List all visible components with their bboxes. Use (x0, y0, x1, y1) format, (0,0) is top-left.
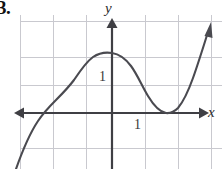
grid-lines (20, 15, 222, 169)
y-axis-arrowhead (107, 18, 118, 28)
y-unit-tick-label: 1 (99, 70, 106, 84)
axes (14, 18, 209, 169)
x-axis-negative-arrowhead (14, 108, 24, 119)
x-axis-label: x (208, 105, 215, 120)
problem-number: 3. (0, 0, 10, 17)
graph-figure (0, 0, 222, 169)
plotted-curve (16, 22, 213, 169)
y-axis-label: y (105, 1, 112, 16)
figure-container: 3. y x 1 1 (0, 0, 222, 169)
x-unit-tick-label: 1 (134, 118, 141, 132)
